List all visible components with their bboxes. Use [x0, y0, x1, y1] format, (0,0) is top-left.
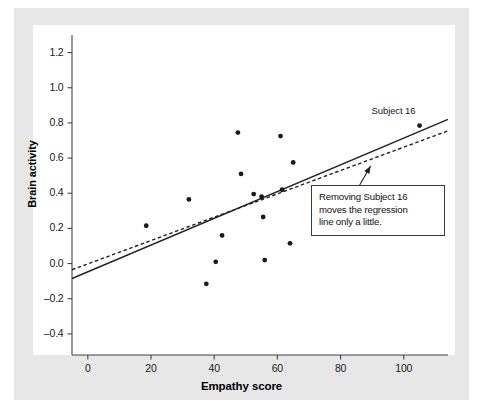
y-tick-label: 1.2	[24, 46, 64, 58]
data-point	[235, 130, 240, 135]
x-tick-label: 0	[68, 362, 108, 374]
y-axis-label: Brain activity	[26, 114, 38, 234]
y-tick-label: –0.4	[24, 327, 64, 339]
data-point	[417, 123, 422, 128]
x-tick-label: 20	[131, 362, 171, 374]
data-point	[280, 187, 285, 192]
callout-line-3: line only a little.	[319, 216, 438, 229]
y-tick-label: –0.2	[24, 292, 64, 304]
data-point	[262, 258, 267, 263]
data-point	[144, 223, 149, 228]
callout-line-2: moves the regression	[319, 204, 438, 217]
callout-arrowhead	[364, 166, 370, 174]
data-point	[251, 192, 256, 197]
data-point	[213, 259, 218, 264]
x-tick-label: 40	[194, 362, 234, 374]
figure-container: 1.21.00.80.60.40.20.0–0.2–0.402040608010…	[0, 0, 483, 416]
y-tick-label: 1.0	[24, 81, 64, 93]
subject-16-point-label: Subject 16	[372, 105, 416, 116]
y-tick-label: 0.0	[24, 257, 64, 269]
x-tick-label: 60	[257, 362, 297, 374]
x-tick-label: 80	[321, 362, 361, 374]
data-point	[278, 134, 283, 139]
data-point	[220, 233, 225, 238]
data-point	[261, 215, 266, 220]
data-point	[291, 160, 296, 165]
x-tick-label: 100	[384, 362, 424, 374]
callout-annotation-box: Removing Subject 16 moves the regression…	[311, 185, 445, 236]
data-point	[204, 281, 209, 286]
x-axis-label: Empathy score	[0, 380, 483, 392]
callout-line-1: Removing Subject 16	[319, 191, 438, 204]
data-point	[239, 172, 244, 177]
data-point	[259, 194, 264, 199]
data-point	[187, 197, 192, 202]
data-point	[288, 241, 293, 246]
